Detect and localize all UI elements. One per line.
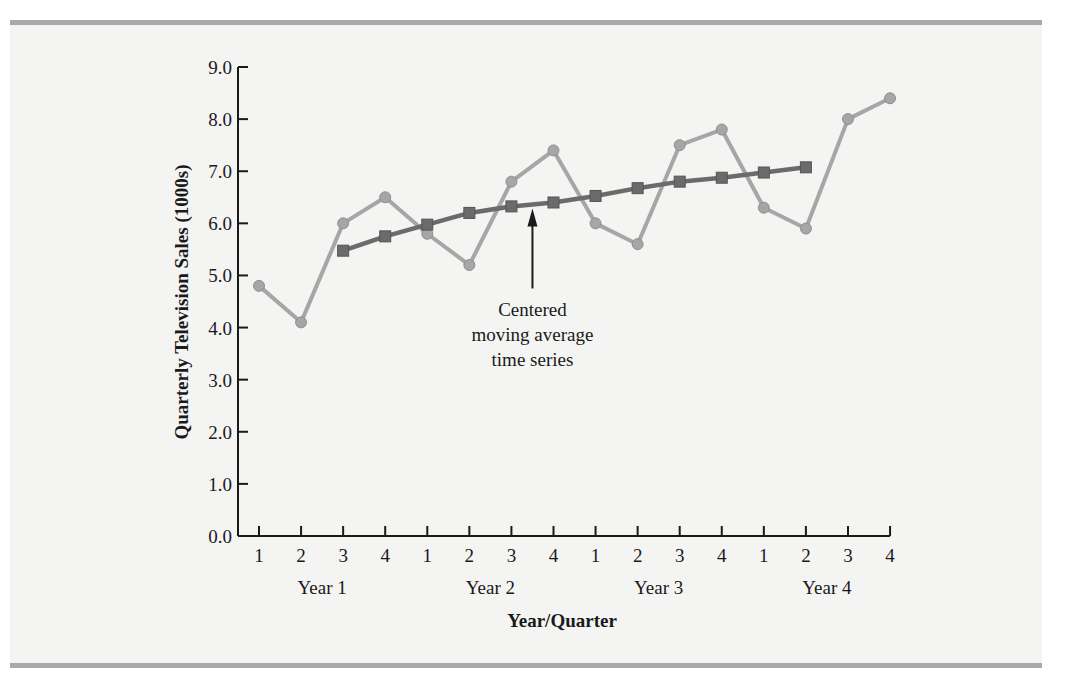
x-tick-label: 4 (717, 545, 727, 566)
y-tick-label: 8.0 (208, 109, 232, 130)
square-marker (632, 183, 643, 194)
x-tick-label: 2 (633, 545, 643, 566)
y-tick-label: 3.0 (208, 370, 232, 391)
square-marker (716, 172, 727, 183)
year-label: Year 1 (297, 577, 346, 598)
circle-marker (716, 124, 727, 135)
annotation-text: time series (492, 349, 574, 370)
y-axis-title: Quarterly Television Sales (1000s) (171, 165, 193, 440)
sales-series (254, 93, 896, 328)
moving-average-series (338, 162, 812, 256)
year-label: Year 2 (466, 577, 515, 598)
square-marker (758, 167, 769, 178)
x-axis-title: Year/Quarter (507, 610, 617, 631)
circle-marker (800, 223, 811, 234)
square-marker (800, 162, 811, 173)
square-marker (464, 207, 475, 218)
circle-marker (464, 260, 475, 271)
x-tick-label: 3 (675, 545, 685, 566)
annotation-text: moving average (472, 324, 594, 345)
arrow-head-icon (527, 208, 537, 226)
x-tick-label: 3 (843, 545, 853, 566)
series-layer (254, 93, 896, 328)
y-tick-label: 4.0 (208, 318, 232, 339)
circle-marker (380, 192, 391, 203)
x-tick-label: 1 (591, 545, 601, 566)
line-chart: 0.01.02.03.04.05.06.07.08.09.0 123412341… (0, 0, 1066, 691)
square-marker (590, 190, 601, 201)
square-marker (674, 176, 685, 187)
x-tick-label: 2 (465, 545, 475, 566)
x-tick-label: 3 (338, 545, 348, 566)
y-tick-label: 7.0 (208, 161, 232, 182)
y-tick-label: 0.0 (208, 526, 232, 547)
x-tick-label: 2 (801, 545, 811, 566)
circle-marker (842, 114, 853, 125)
square-marker (548, 197, 559, 208)
circle-marker (674, 140, 685, 151)
circle-marker (338, 218, 349, 229)
circle-marker (632, 239, 643, 250)
year-label: Year 3 (634, 577, 683, 598)
square-marker (338, 245, 349, 256)
annotation: Centeredmoving averagetime series (472, 208, 594, 370)
circle-marker (548, 145, 559, 156)
circle-marker (885, 93, 896, 104)
annotation-text: Centered (498, 299, 567, 320)
x-tick-label: 1 (254, 545, 264, 566)
circle-marker (254, 280, 265, 291)
square-marker (422, 219, 433, 230)
square-marker (380, 231, 391, 242)
x-tick-label: 4 (885, 545, 895, 566)
y-axis: 0.01.02.03.04.05.06.07.08.09.0 (208, 57, 248, 547)
x-axis: 1234123412341234Year 1Year 2Year 3Year 4 (238, 526, 895, 598)
circle-marker (758, 202, 769, 213)
y-tick-label: 5.0 (208, 265, 232, 286)
x-tick-label: 1 (759, 545, 769, 566)
y-tick-label: 6.0 (208, 213, 232, 234)
y-tick-label: 9.0 (208, 57, 232, 78)
x-tick-label: 4 (380, 545, 390, 566)
circle-marker (296, 317, 307, 328)
y-tick-label: 2.0 (208, 422, 232, 443)
square-marker (506, 201, 517, 212)
y-tick-label: 1.0 (208, 474, 232, 495)
year-label: Year 4 (802, 577, 852, 598)
x-tick-label: 3 (507, 545, 517, 566)
x-tick-label: 2 (296, 545, 306, 566)
x-tick-label: 1 (423, 545, 433, 566)
circle-marker (506, 176, 517, 187)
x-tick-label: 4 (549, 545, 559, 566)
circle-marker (590, 218, 601, 229)
